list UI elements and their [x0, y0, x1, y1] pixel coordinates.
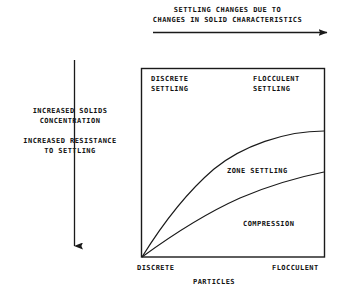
x-axis-tick-label-discrete: DISCRETE: [137, 264, 174, 274]
left-axis-caption-solids-concentration: INCREASED SOLIDS CONCENTRATION: [14, 106, 126, 127]
left-axis-caption-resistance-to-settling: INCREASED RESISTANCE TO SETTLING: [10, 136, 130, 157]
top-caption-text: SETTLING CHANGES DUE TO CHANGES IN SOLID…: [120, 6, 335, 25]
plot-border-box: [142, 69, 325, 258]
region-label-zone-settling: ZONE SETTLING: [226, 167, 289, 177]
x-axis-title: PARTICLES: [193, 278, 235, 288]
region-label-flocculent-settling: FLOCCULENT SETTLING: [253, 75, 300, 94]
region-label-discrete-settling: DISCRETE SETTLING: [151, 75, 188, 94]
curve-lower-boundary: [142, 172, 324, 257]
diagram-canvas: SETTLING CHANGES DUE TO CHANGES IN SOLID…: [0, 0, 343, 301]
region-label-compression: COMPRESSION: [243, 220, 294, 230]
curve-upper-boundary: [142, 131, 324, 257]
x-axis-tick-label-flocculent: FLOCCULENT: [272, 264, 319, 274]
